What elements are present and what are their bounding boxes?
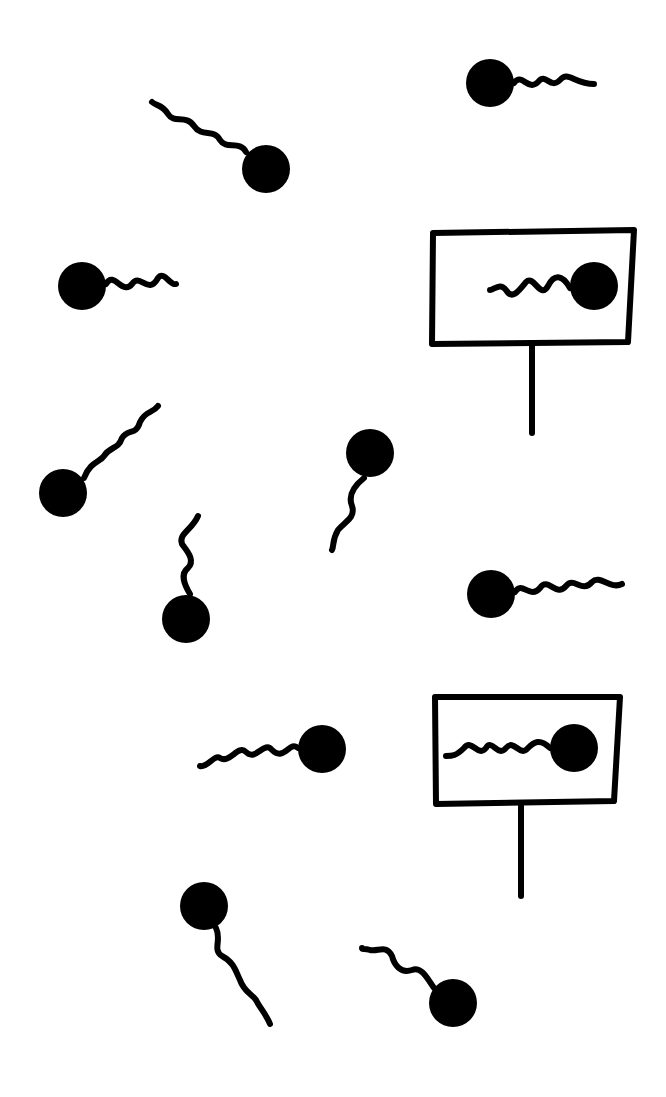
diagram-canvas bbox=[0, 0, 666, 1097]
molecule-head bbox=[180, 882, 228, 930]
molecule-head bbox=[429, 979, 477, 1027]
molecule-head bbox=[242, 145, 290, 193]
molecule-head bbox=[162, 595, 210, 643]
molecule-head bbox=[467, 570, 515, 618]
molecule-head bbox=[570, 262, 618, 310]
molecule-head bbox=[58, 262, 106, 310]
molecule-head bbox=[550, 724, 598, 772]
molecule-head bbox=[466, 59, 514, 107]
molecule-head bbox=[298, 725, 346, 773]
molecule-head bbox=[39, 469, 87, 517]
molecule-head bbox=[346, 429, 394, 477]
